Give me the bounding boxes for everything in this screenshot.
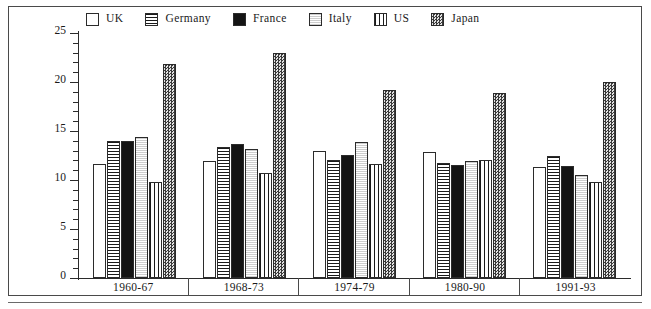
legend-swatch-italy-icon — [309, 13, 322, 26]
legend-label-germany: Germany — [165, 13, 211, 25]
bar-us-1980-90 — [479, 160, 492, 278]
y-tick-mark — [70, 180, 78, 181]
legend-item-uk: UK — [86, 13, 123, 26]
bar-us-1991-93 — [589, 182, 602, 278]
bar-uk-1968-73 — [203, 161, 216, 278]
y-tick-mark — [73, 160, 78, 161]
bar-france-1974-79 — [341, 155, 354, 278]
y-tick-mark — [70, 33, 78, 34]
bar-us-1974-79 — [369, 164, 382, 278]
legend-swatch-uk-icon — [86, 13, 99, 26]
y-tick-mark — [73, 190, 78, 191]
bar-germany-1968-73 — [217, 147, 230, 278]
legend-label-us: US — [394, 13, 410, 25]
y-tick-mark — [73, 141, 78, 142]
bar-uk-1991-93 — [533, 167, 546, 278]
y-tick-label: 10 — [55, 172, 67, 184]
x-axis-category-band: 1960-671968-731974-791980-901991-93 — [78, 278, 631, 296]
y-tick-mark — [70, 131, 78, 132]
legend-item-france: France — [233, 13, 287, 26]
y-tick-mark — [70, 278, 78, 279]
bar-group — [410, 33, 520, 278]
y-tick-mark — [73, 200, 78, 201]
legend-swatch-germany-icon — [145, 13, 158, 26]
bar-france-1991-93 — [561, 166, 574, 278]
bar-japan-1960-67 — [163, 64, 176, 278]
legend-label-japan: Japan — [451, 13, 479, 25]
bar-italy-1980-90 — [465, 161, 478, 278]
bar-japan-1974-79 — [383, 90, 396, 278]
y-tick-mark — [70, 82, 78, 83]
bar-italy-1974-79 — [355, 142, 368, 278]
y-tick-mark — [73, 43, 78, 44]
bar-italy-1968-73 — [245, 149, 258, 278]
chart-legend: UK Germany France Italy US Japan — [86, 10, 502, 28]
y-tick-mark — [73, 258, 78, 259]
y-tick-label: 5 — [60, 221, 66, 233]
bar-germany-1960-67 — [107, 141, 120, 278]
bar-us-1968-73 — [259, 173, 272, 278]
bar-japan-1980-90 — [493, 93, 506, 278]
x-axis-category-label: 1974-79 — [299, 278, 410, 296]
x-axis-category-label: 1991-93 — [520, 278, 631, 296]
y-tick-mark — [73, 249, 78, 250]
bar-group — [520, 33, 630, 278]
bar-group — [189, 33, 299, 278]
y-tick-mark — [73, 268, 78, 269]
bar-uk-1960-67 — [93, 164, 106, 278]
y-tick-label: 0 — [60, 270, 66, 282]
y-tick-label: 15 — [55, 123, 67, 135]
bar-group — [299, 33, 409, 278]
y-tick-label: 20 — [55, 74, 67, 86]
y-tick-mark — [73, 239, 78, 240]
y-tick-mark — [73, 151, 78, 152]
bar-france-1960-67 — [121, 141, 134, 278]
legend-item-us: US — [374, 13, 410, 26]
bar-italy-1960-67 — [135, 137, 148, 278]
legend-label-uk: UK — [106, 13, 123, 25]
chart-figure: UK Germany France Italy US Japan 0510152… — [0, 0, 651, 309]
legend-label-italy: Italy — [329, 13, 352, 25]
legend-item-japan: Japan — [431, 13, 479, 26]
bar-france-1980-90 — [451, 165, 464, 278]
bar-germany-1974-79 — [327, 160, 340, 278]
y-tick-mark — [73, 72, 78, 73]
legend-item-germany: Germany — [145, 13, 211, 26]
bar-italy-1991-93 — [575, 175, 588, 278]
bar-japan-1968-73 — [273, 53, 286, 278]
legend-item-italy: Italy — [309, 13, 352, 26]
y-tick-mark — [73, 53, 78, 54]
bar-france-1968-73 — [231, 144, 244, 278]
bar-japan-1991-93 — [603, 82, 616, 278]
bar-uk-1974-79 — [313, 151, 326, 278]
legend-swatch-japan-icon — [431, 13, 444, 26]
y-tick-mark — [73, 62, 78, 63]
bar-germany-1991-93 — [547, 156, 560, 278]
legend-label-france: France — [253, 13, 287, 25]
bar-group — [79, 33, 189, 278]
y-tick-mark — [73, 219, 78, 220]
bar-germany-1980-90 — [437, 163, 450, 278]
legend-swatch-france-icon — [233, 13, 246, 26]
x-axis-category-label: 1980-90 — [410, 278, 521, 296]
x-axis-category-label: 1968-73 — [189, 278, 300, 296]
bar-groups — [79, 33, 630, 278]
x-axis-category-label: 1960-67 — [78, 278, 189, 296]
y-tick-label: 25 — [55, 25, 67, 37]
legend-swatch-us-icon — [374, 13, 387, 26]
y-tick-mark — [73, 209, 78, 210]
y-tick-mark — [70, 229, 78, 230]
bar-us-1960-67 — [149, 182, 162, 278]
y-tick-mark — [73, 111, 78, 112]
x-axis-category-rule — [78, 295, 631, 296]
bar-uk-1980-90 — [423, 152, 436, 278]
y-tick-mark — [73, 121, 78, 122]
y-tick-mark — [73, 92, 78, 93]
figure-bottom-rule — [8, 302, 642, 303]
y-tick-mark — [73, 102, 78, 103]
y-tick-mark — [73, 170, 78, 171]
